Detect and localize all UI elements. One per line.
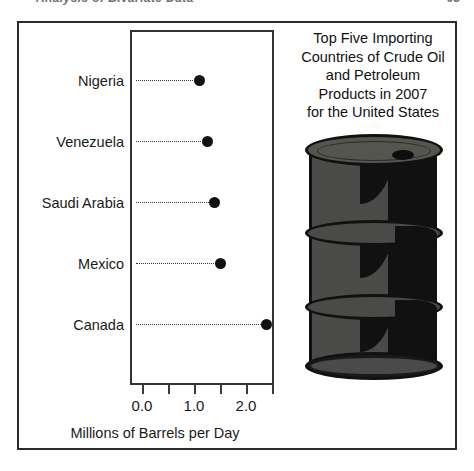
data-point[interactable] (209, 197, 220, 208)
barrel-bung-hole (392, 150, 414, 160)
barrel-body (309, 148, 437, 370)
barrel-bottom-shade (311, 358, 437, 374)
chart-title-line-1: Top Five Importing (291, 29, 455, 48)
barrel-rib-shade (395, 226, 437, 244)
x-axis-tick-labels: 0.01.02.0 (130, 397, 310, 419)
category-row: Canada (19, 316, 274, 334)
chart-title-line-4: Products in 2007 (291, 85, 455, 104)
category-row: Venezuela (19, 133, 274, 151)
barrel-rib-upper (305, 220, 443, 246)
page-number: 93 (447, 0, 460, 5)
barrel-lid-inner-ring (317, 141, 431, 161)
category-row: Nigeria (19, 72, 274, 90)
category-row: Saudi Arabia (19, 194, 274, 212)
category-label: Venezuela (19, 133, 124, 151)
data-point[interactable] (261, 319, 272, 330)
category-label: Canada (19, 316, 124, 334)
dot-plot-chart: NigeriaVenezuelaSaudi ArabiaMexicoCanada… (19, 23, 291, 452)
x-axis-tick-label: 2.0 (236, 397, 257, 414)
category-label: Nigeria (19, 72, 124, 90)
x-axis-tick-label: 1.0 (184, 397, 205, 414)
running-title: Analysis of Bivariate Data (36, 0, 194, 5)
leader-line (136, 263, 218, 264)
leader-line (136, 202, 213, 203)
leader-line (136, 324, 265, 325)
right-panel: Top Five ImportingCountries of Crude Oil… (291, 23, 455, 448)
barrel-shadow (388, 148, 434, 370)
page-running-header: Analysis of Bivariate Data 93 (0, 0, 474, 9)
x-axis-tick (168, 385, 170, 394)
x-axis-tick (246, 385, 248, 394)
oil-barrel-illustration (299, 130, 451, 390)
barrel-top-lid (305, 134, 443, 166)
category-label: Mexico (19, 255, 124, 273)
category-label: Saudi Arabia (19, 194, 124, 212)
x-axis-tick-label: 0.0 (132, 397, 153, 414)
chart-title-line-5: for the United States (291, 103, 455, 122)
data-point[interactable] (202, 136, 213, 147)
chart-title: Top Five ImportingCountries of Crude Oil… (291, 29, 455, 122)
leader-line (136, 80, 197, 81)
data-point[interactable] (194, 75, 205, 86)
x-axis-title: Millions of Barrels per Day (19, 425, 291, 441)
chart-title-line-3: and Petroleum (291, 66, 455, 85)
leader-line (136, 141, 205, 142)
chart-title-line-2: Countries of Crude Oil (291, 48, 455, 67)
x-axis-tick (142, 385, 144, 394)
barrel-rib-lower (305, 294, 443, 320)
x-axis-tick (194, 385, 196, 394)
data-point[interactable] (215, 258, 226, 269)
x-axis-tick (272, 385, 274, 394)
barrel-bottom (305, 352, 443, 380)
x-axis-tick (220, 385, 222, 394)
barrel-rib-shade (395, 300, 437, 318)
category-row: Mexico (19, 255, 274, 273)
figure-frame: NigeriaVenezuelaSaudi ArabiaMexicoCanada… (17, 21, 457, 450)
